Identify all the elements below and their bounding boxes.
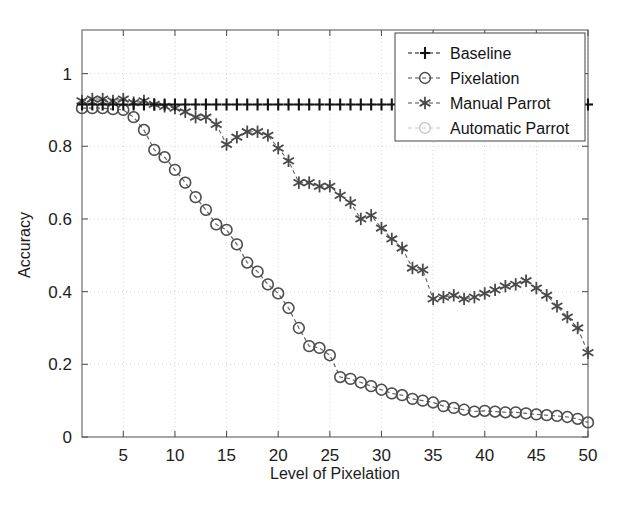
- x-tick-label: 50: [579, 446, 598, 465]
- y-tick-label: 0.2: [48, 355, 72, 374]
- y-tick-label: 0.8: [48, 137, 72, 156]
- legend-label: Manual Parrot: [450, 95, 551, 112]
- legend-label: Pixelation: [450, 70, 519, 87]
- x-tick-label: 30: [372, 446, 391, 465]
- x-tick-label: 40: [475, 446, 494, 465]
- y-tick-label: 0: [63, 428, 72, 447]
- legend-label: Automatic Parrot: [450, 120, 570, 137]
- y-tick-label: 0.4: [48, 283, 72, 302]
- chart-figure: 510152025303540455000.20.40.60.81 Level …: [0, 0, 621, 505]
- x-tick-label: 10: [165, 446, 184, 465]
- x-tick-label: 25: [320, 446, 339, 465]
- chart-legend[interactable]: BaselinePixelationManual ParrotAutomatic…: [395, 33, 585, 141]
- y-tick-label: 1: [63, 65, 72, 84]
- x-tick-label: 20: [269, 446, 288, 465]
- x-tick-label: 15: [217, 446, 236, 465]
- x-tick-label: 45: [527, 446, 546, 465]
- y-axis-label: Accuracy: [16, 212, 33, 278]
- x-tick-label: 5: [119, 446, 128, 465]
- accuracy-vs-pixelation-chart: 510152025303540455000.20.40.60.81 Level …: [0, 0, 621, 505]
- x-tick-label: 35: [424, 446, 443, 465]
- y-tick-label: 0.6: [48, 210, 72, 229]
- legend-label: Baseline: [450, 45, 511, 62]
- x-axis-label: Level of Pixelation: [270, 465, 400, 482]
